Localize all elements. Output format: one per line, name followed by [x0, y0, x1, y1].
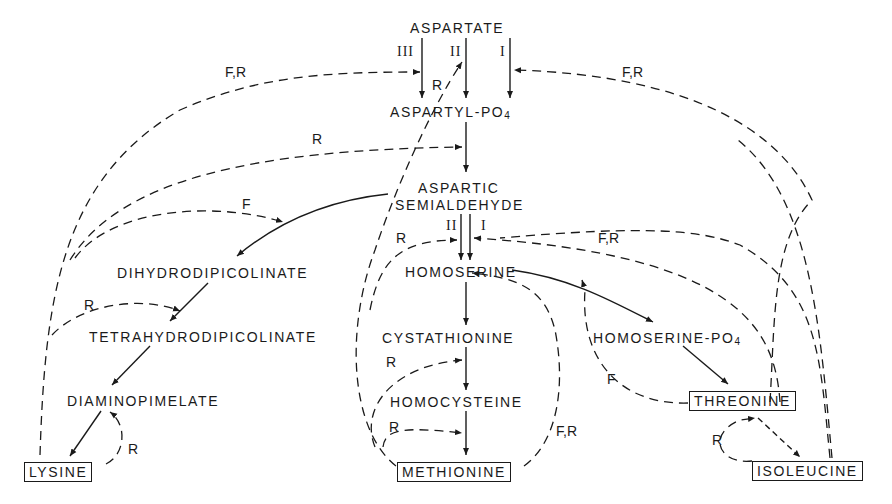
pathway-edges	[0, 0, 892, 504]
label-thr-hd1: F,R	[598, 230, 619, 246]
node-homocysteine: HOMOCYSTEINE	[390, 394, 523, 410]
label-ak-i: I	[500, 44, 506, 60]
node-dihydrodipicolinate: DIHYDRODIPICOLINATE	[117, 265, 308, 281]
edge-dhdp-thdp	[170, 283, 208, 321]
label-thr-hser: F	[607, 371, 616, 387]
label-lys-thdp: R	[84, 297, 94, 313]
edge-ile-self-r	[720, 418, 755, 461]
node-aspartyl-po4-text: ASPARTYL-PO	[390, 104, 504, 120]
edge-thdp-dap	[112, 346, 150, 385]
label-lys-dhdp: F	[242, 196, 251, 212]
edge-hser-hserpo4	[512, 270, 653, 322]
edge-thr-ile	[758, 418, 800, 457]
label-met-homocys: R	[389, 419, 399, 435]
edge-met-hser-fr	[472, 273, 560, 466]
label-thr-ak1: F,R	[622, 64, 643, 80]
node-cystathionine: CYSTATHIONINE	[382, 330, 514, 346]
label-lys-asa: R	[312, 131, 322, 147]
node-homoserine-po4-text: HOMOSERINE-PO	[593, 330, 734, 346]
node-isoleucine: ISOLEUCINE	[752, 461, 863, 481]
label-lys-ak3: F,R	[225, 64, 246, 80]
node-aspartyl-po4: ASPARTYL-PO4	[390, 104, 512, 124]
node-diaminopimelate: DIAMINOPIMELATE	[67, 393, 219, 409]
label-ak-ii: II	[450, 44, 461, 60]
node-aspartic: ASPARTIC	[418, 180, 500, 196]
label-ile-self: R	[712, 432, 722, 448]
label-met-hser: F,R	[556, 423, 577, 439]
node-homoserine-po4: HOMOSERINE-PO4	[593, 330, 742, 350]
pathway-diagram: ASPARTATE ASPARTYL-PO4 ASPARTIC SEMIALDE…	[0, 0, 892, 504]
node-tetrahydrodipicolinate: TETRAHYDRODIPICOLINATE	[89, 329, 317, 345]
label-met-cysta: R	[386, 354, 396, 370]
label-met-hd2: R	[396, 230, 406, 246]
edge-lysine-dhdp-f	[75, 211, 283, 258]
label-hd-ii: II	[446, 218, 457, 234]
edge-asa-dhdp	[237, 194, 388, 256]
label-met-ak2: R	[432, 77, 442, 93]
node-threonine: THREONINE	[689, 391, 796, 411]
node-homoserine: HOMOSERINE	[405, 264, 517, 280]
edge-lysine-self-r	[106, 412, 122, 464]
label-lys-self: R	[128, 441, 138, 457]
node-methionine: METHIONINE	[397, 462, 511, 482]
edge-thr-hd1	[474, 238, 780, 402]
edge-hserpo4-thr	[683, 346, 728, 384]
edge-dap-lysine	[70, 411, 101, 456]
node-semialdehyde: SEMIALDEHYDE	[395, 197, 524, 213]
node-aspartate: ASPARTATE	[410, 20, 504, 36]
node-homoserine-po4-sub: 4	[734, 336, 741, 347]
label-ak-iii: III	[397, 44, 414, 60]
node-lysine: LYSINE	[24, 462, 92, 482]
node-aspartyl-po4-sub: 4	[504, 110, 511, 121]
label-hd-i: I	[481, 218, 487, 234]
